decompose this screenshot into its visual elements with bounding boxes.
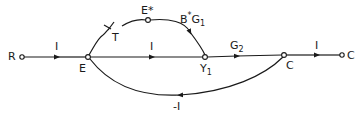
node-c-output <box>340 53 344 57</box>
branch-feedback <box>180 57 283 95</box>
node-r <box>20 55 24 59</box>
label-node-r: R <box>8 51 16 62</box>
label-branch-c-to-output: I <box>315 40 318 51</box>
label-node-y1: Y1 <box>200 63 212 77</box>
label-branch-feedback: -I <box>173 101 180 112</box>
label-branch-r-to-e: I <box>55 41 58 52</box>
node-c-internal <box>282 53 287 58</box>
label-sampler-t: T <box>112 32 119 43</box>
label-branch-e-to-y1: I <box>150 41 153 52</box>
node-e-star <box>146 18 151 23</box>
branch-estar-to-y1 <box>122 20 146 26</box>
branch-y1-to-c <box>207 56 237 57</box>
label-node-e-star: E* <box>141 5 153 16</box>
branch-e-to-sampler <box>89 29 109 55</box>
label-node-c-internal: C <box>286 60 294 71</box>
label-node-c-output: C <box>347 50 355 61</box>
label-branch-estar-to-y1: B*G1 <box>180 12 205 28</box>
node-e <box>86 55 91 60</box>
node-y1 <box>203 55 208 60</box>
label-node-e: E <box>79 63 86 74</box>
signal-flow-graph: R I E T E* I B*G1 Y1 G2 C I C -I <box>0 0 364 115</box>
label-branch-y1-to-c: G2 <box>230 40 244 54</box>
